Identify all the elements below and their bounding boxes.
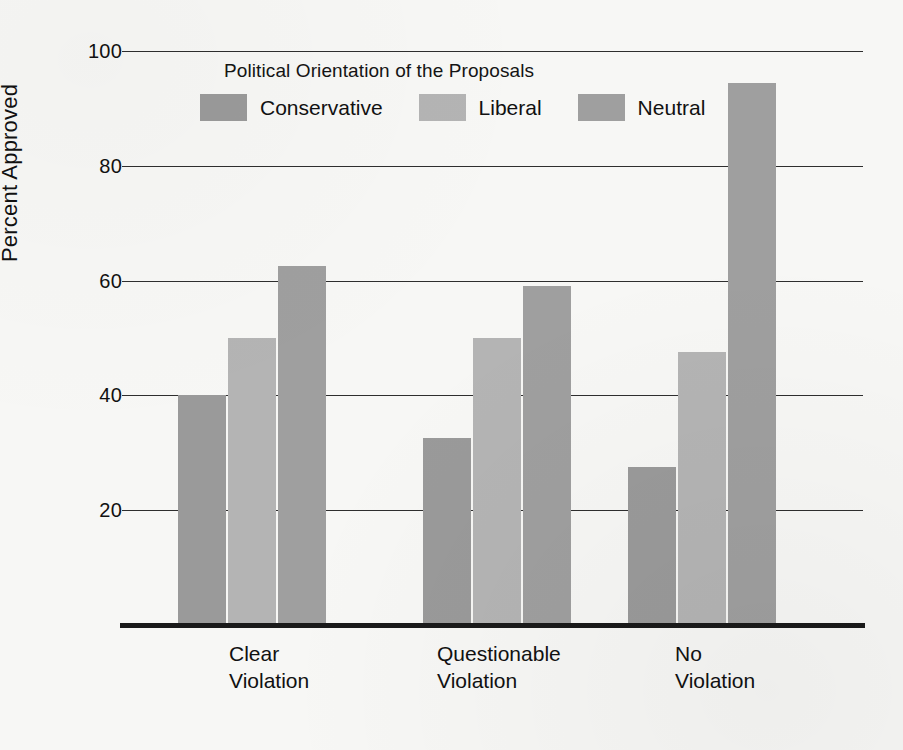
legend-title: Political Orientation of the Proposals — [224, 60, 741, 82]
bar-conservative-group-3 — [628, 467, 676, 625]
bar-liberal-group-3 — [678, 352, 726, 625]
bar-conservative-group-2 — [423, 438, 471, 625]
legend-item-neutral: Neutral — [578, 94, 706, 121]
legend-label: Neutral — [638, 96, 706, 120]
bar-neutral-group-2 — [523, 286, 571, 625]
legend-swatch-icon-neutral — [578, 94, 625, 121]
gridline-100 — [133, 51, 863, 52]
chart-legend: Political Orientation of the Proposals C… — [200, 60, 741, 121]
legend-item-liberal: Liberal — [419, 94, 542, 121]
y-tick-label: 20 — [99, 499, 122, 522]
bar-liberal-group-1 — [228, 338, 276, 625]
bar-liberal-group-2 — [473, 338, 521, 625]
x-axis-label-line2: Violation — [675, 667, 755, 694]
x-axis-line — [120, 623, 865, 628]
x-axis-label-line2: Violation — [229, 667, 309, 694]
chart-page: Percent Approved 20406080100 Political O… — [0, 0, 903, 750]
x-axis-label-line1: No — [675, 640, 755, 667]
x-axis-label-line1: Clear — [229, 640, 309, 667]
legend-label: Conservative — [260, 96, 383, 120]
y-tick-label: 40 — [99, 384, 122, 407]
x-axis-label-group-2: QuestionableViolation — [437, 640, 561, 695]
plot-area — [133, 51, 863, 625]
bar-conservative-group-1 — [178, 395, 226, 625]
y-tick-label: 80 — [99, 154, 122, 177]
y-tick-label: 60 — [99, 269, 122, 292]
legend-swatch-icon-conservative — [200, 94, 247, 121]
legend-item-conservative: Conservative — [200, 94, 383, 121]
x-axis-label-line2: Violation — [437, 667, 561, 694]
x-axis-label-group-1: ClearViolation — [229, 640, 309, 695]
bar-neutral-group-1 — [278, 266, 326, 625]
y-axis-title: Percent Approved — [0, 0, 23, 262]
legend-label: Liberal — [479, 96, 542, 120]
x-axis-label-group-3: NoViolation — [675, 640, 755, 695]
legend-swatch-icon-liberal — [419, 94, 466, 121]
bar-neutral-group-3 — [728, 83, 776, 625]
y-tick-label: 100 — [88, 40, 122, 63]
x-axis-label-line1: Questionable — [437, 640, 561, 667]
legend-items: ConservativeLiberalNeutral — [200, 94, 741, 121]
